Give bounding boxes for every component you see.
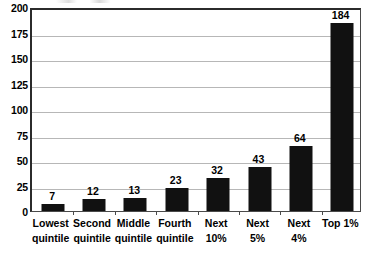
bar-slot: 43 (239, 10, 280, 211)
x-axis-tick-label: Lowestquintile (30, 216, 71, 245)
x-axis-tick-label-line: 4% (278, 231, 319, 246)
x-axis-tick-label-line: Next (237, 216, 278, 231)
bar-slot: 184 (322, 10, 363, 211)
bar-chart: 0255075100125150175200 7121323324364184 … (0, 0, 368, 259)
bar[interactable] (207, 178, 230, 211)
bar[interactable] (83, 199, 106, 211)
x-axis-tick-label: Top 1% (320, 216, 361, 231)
x-axis-tick-label: Next10% (196, 216, 237, 245)
bar[interactable] (331, 23, 354, 211)
x-axis-tick-label-line: 5% (237, 231, 278, 246)
y-axis-tick-label: 0 (2, 207, 28, 217)
y-axis-tick-label: 150 (2, 54, 28, 64)
x-axis-tick (73, 211, 74, 215)
bar[interactable] (124, 198, 147, 211)
bar-slot: 13 (115, 10, 156, 211)
x-axis-tick (198, 211, 199, 215)
bar-slot: 23 (156, 10, 197, 211)
x-axis-tick-label: Fourthquintile (154, 216, 195, 245)
x-axis: LowestquintileSecondquintileMiddlequinti… (30, 216, 361, 258)
x-axis-tick-label-line: quintile (30, 231, 71, 246)
bar-value-label: 13 (128, 185, 140, 196)
x-axis-tick (322, 211, 323, 215)
bars-layer: 7121323324364184 (32, 10, 360, 211)
x-axis-tick-label-line: Next (196, 216, 237, 231)
x-axis-tick-label-line: 10% (196, 231, 237, 246)
plot-area: 7121323324364184 (30, 8, 361, 212)
y-axis-tick-label: 50 (2, 156, 28, 166)
y-axis: 0255075100125150175200 (0, 0, 28, 259)
x-axis-tick (239, 211, 240, 215)
x-axis-tick-label-line: Second (71, 216, 112, 231)
x-axis-tick-label-line: quintile (113, 231, 154, 246)
x-axis-tick (156, 211, 157, 215)
y-axis-tick-label: 75 (2, 131, 28, 141)
bar[interactable] (289, 146, 312, 211)
bar-slot: 32 (198, 10, 239, 211)
bar-value-label: 184 (332, 10, 350, 21)
bar[interactable] (165, 188, 188, 211)
bar-value-label: 7 (49, 191, 55, 202)
x-axis-tick-label-line: quintile (71, 231, 112, 246)
bar-slot: 12 (73, 10, 114, 211)
bar[interactable] (41, 204, 64, 211)
y-axis-tick-label: 175 (2, 29, 28, 39)
bar-value-label: 23 (170, 175, 182, 186)
x-axis-tick-label-line: Lowest (30, 216, 71, 231)
bar-value-label: 12 (87, 186, 99, 197)
x-axis-tick-label: Next4% (278, 216, 319, 245)
y-axis-tick-label: 25 (2, 182, 28, 192)
x-axis-tick (280, 211, 281, 215)
bar-value-label: 64 (294, 133, 306, 144)
bar-value-label: 32 (211, 165, 223, 176)
x-axis-tick-label-line: Fourth (154, 216, 195, 231)
x-axis-tick-label: Secondquintile (71, 216, 112, 245)
bar[interactable] (248, 167, 271, 211)
bar-slot: 64 (280, 10, 321, 211)
x-axis-tick-label-line: Top 1% (320, 216, 361, 231)
x-axis-tick-label: Next5% (237, 216, 278, 245)
x-axis-tick-label-line: Next (278, 216, 319, 231)
x-axis-tick-label-line: Middle (113, 216, 154, 231)
x-axis-tick (115, 211, 116, 215)
y-axis-tick-label: 100 (2, 105, 28, 115)
x-axis-tick-label: Middlequintile (113, 216, 154, 245)
bar-slot: 7 (32, 10, 73, 211)
x-axis-tick-label-line: quintile (154, 231, 195, 246)
bar-value-label: 43 (253, 154, 265, 165)
y-axis-tick-label: 125 (2, 80, 28, 90)
y-axis-tick-label: 200 (2, 3, 28, 13)
cropped-title-artifact (56, 0, 126, 3)
